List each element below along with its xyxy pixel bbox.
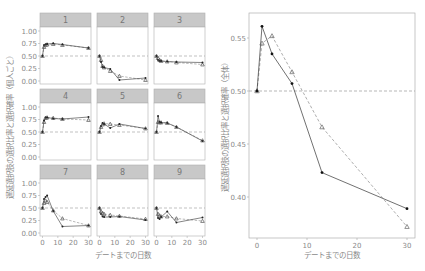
dot-marker-icon [46, 195, 48, 197]
y-tick-label: 0.25 [21, 217, 37, 225]
facet-strip-label: 9 [177, 168, 182, 177]
left-y-axis-title: 遅延選択肢の選択比率と選択確率（個人ごと） [5, 52, 15, 199]
dot-marker-icon [166, 211, 168, 213]
panel-frame [40, 103, 91, 160]
dot-marker-icon [99, 207, 101, 209]
facet-panel-5: 5 [97, 89, 148, 160]
dot-marker-icon [291, 82, 294, 85]
dot-marker-icon [99, 55, 101, 57]
right-x-axis-title: デートまでの日数 [304, 250, 361, 260]
dot-marker-icon [145, 219, 147, 221]
y-tick-label: 0.00 [21, 78, 37, 86]
dot-marker-icon [321, 171, 324, 174]
dot-marker-icon [118, 79, 120, 81]
x-tick-label: 20 [183, 239, 192, 247]
x-tick-label: 0 [97, 239, 101, 247]
dot-marker-icon [42, 207, 44, 209]
facet-panel-1: 10.000.250.500.751.00 [21, 13, 91, 86]
right-y-axis-title: 遅延選択肢の選択比率と選択確率（全体） [220, 59, 230, 192]
y-tick-label: 0.55 [230, 35, 246, 43]
dot-marker-icon [42, 55, 44, 57]
panel-frame [40, 179, 91, 236]
dot-marker-icon [160, 60, 162, 62]
facet-strip-label: 5 [120, 92, 125, 101]
figure: 10.000.250.500.751.002340.000.250.500.75… [0, 0, 425, 271]
dot-marker-icon [45, 196, 47, 198]
dot-marker-icon [52, 118, 54, 120]
dot-marker-icon [103, 123, 105, 125]
dot-marker-icon [202, 62, 204, 64]
y-tick-label: 0.50 [21, 129, 37, 137]
x-tick-label: 20 [69, 239, 78, 247]
dot-marker-icon [406, 207, 409, 210]
dot-marker-icon [52, 210, 54, 212]
dot-marker-icon [118, 123, 120, 125]
dot-marker-icon [61, 118, 63, 120]
left-x-axis-title: デートまでの日数 [95, 250, 152, 260]
dot-marker-icon [145, 128, 147, 130]
facet-panel-3: 3 [154, 13, 205, 84]
facet-strip-label: 6 [177, 92, 182, 101]
facet-strip-label: 1 [63, 16, 68, 25]
x-tick-label: 10 [303, 242, 312, 250]
y-tick-label: 0.50 [230, 88, 246, 96]
dot-marker-icon [175, 222, 177, 224]
dot-marker-icon [145, 77, 147, 79]
dot-marker-icon [103, 67, 105, 69]
y-tick-label: 0.00 [21, 154, 37, 162]
dot-marker-icon [160, 216, 162, 218]
panel-frame [154, 179, 205, 236]
dot-marker-icon [52, 43, 54, 45]
y-tick-label: 0.75 [21, 192, 37, 200]
panel-frame [154, 103, 205, 160]
facet-strip-label: 2 [120, 16, 125, 25]
dot-marker-icon [43, 120, 45, 122]
dot-marker-icon [109, 68, 111, 70]
dot-marker-icon [118, 216, 120, 218]
x-tick-label: 30 [84, 239, 93, 247]
dot-marker-icon [100, 61, 102, 63]
y-tick-label: 0.40 [230, 194, 246, 202]
x-tick-label: 0 [40, 239, 44, 247]
x-tick-label: 10 [53, 239, 62, 247]
y-tick-label: 0.75 [21, 116, 37, 124]
dot-marker-icon [109, 127, 111, 129]
x-tick-label: 20 [126, 239, 135, 247]
panel-frame [97, 103, 148, 160]
y-tick-label: 1.00 [21, 104, 37, 112]
plot-frame [249, 13, 415, 238]
dot-marker-icon [261, 25, 264, 28]
dot-marker-icon [88, 47, 90, 49]
facet-strip-label: 4 [63, 92, 68, 101]
dot-marker-icon [109, 216, 111, 218]
dot-marker-icon [46, 117, 48, 119]
facet-panel-6: 6 [154, 89, 205, 160]
y-tick-label: 0.25 [21, 65, 37, 73]
panel-frame [97, 179, 148, 236]
x-tick-label: 30 [141, 239, 150, 247]
x-tick-label: 0 [154, 239, 158, 247]
y-tick-label: 0.45 [230, 141, 246, 149]
overall-chart: 0.400.450.500.550102030 [230, 13, 415, 250]
y-tick-label: 0.50 [21, 53, 37, 61]
dot-marker-icon [88, 225, 90, 227]
dot-marker-icon [159, 218, 161, 220]
dot-marker-icon [103, 216, 105, 218]
facet-panel-8: 80102030 [97, 165, 150, 247]
dot-marker-icon [156, 131, 158, 133]
dot-marker-icon [157, 115, 159, 117]
dot-marker-icon [160, 122, 162, 124]
dot-marker-icon [99, 131, 101, 133]
y-tick-label: 1.00 [21, 28, 37, 36]
y-tick-label: 1.00 [21, 180, 37, 188]
dot-marker-icon [156, 55, 158, 57]
panel-frame [40, 27, 91, 84]
dot-marker-icon [256, 90, 259, 93]
facet-grid: 10.000.250.500.751.002340.000.250.500.75… [21, 13, 207, 247]
x-tick-label: 10 [110, 239, 119, 247]
y-tick-label: 0.75 [21, 40, 37, 48]
facet-strip-label: 3 [177, 16, 182, 25]
dot-marker-icon [175, 126, 177, 128]
y-tick-label: 0.50 [21, 205, 37, 213]
x-tick-label: 20 [353, 242, 362, 250]
